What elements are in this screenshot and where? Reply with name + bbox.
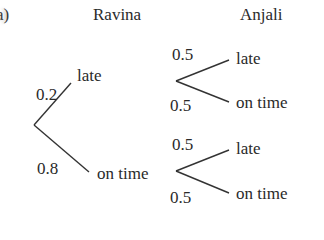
outcome-late-late: late — [236, 50, 261, 67]
prob-ravina-on-time: 0.8 — [37, 160, 58, 177]
outcome-ravina-on-time: on time — [97, 165, 148, 182]
prob-ontime-late: 0.5 — [172, 136, 193, 153]
outcome-ontime-on-time: on time — [236, 185, 287, 202]
prob-ravina-late: 0.2 — [36, 86, 57, 103]
outcome-ravina-late: late — [77, 67, 102, 84]
prob-ontime-on-time: 0.5 — [170, 189, 191, 206]
prob-late-on-time: 0.5 — [170, 97, 191, 114]
outcome-ontime-late: late — [236, 140, 261, 157]
outcome-late-on-time: on time — [236, 94, 287, 111]
prob-late-late: 0.5 — [172, 46, 193, 63]
